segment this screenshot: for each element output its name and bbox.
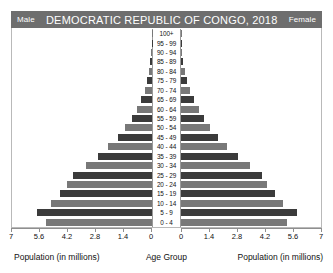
age-group-label: 80 - 84 bbox=[152, 67, 181, 76]
female-bar-cell bbox=[181, 86, 321, 95]
female-bar bbox=[181, 200, 283, 207]
age-group-label: 20 - 24 bbox=[152, 180, 181, 189]
female-bar-cell bbox=[181, 180, 321, 189]
male-bar bbox=[98, 153, 152, 160]
pyramid-row: 20 - 24 bbox=[12, 180, 321, 189]
male-bar-cell bbox=[12, 142, 152, 151]
male-bar-cell bbox=[12, 123, 152, 132]
male-bar-cell bbox=[12, 161, 152, 170]
female-bar-cell bbox=[181, 123, 321, 132]
pyramid-row: 60 - 64 bbox=[12, 104, 321, 113]
age-group-label: 10 - 14 bbox=[152, 199, 181, 208]
female-bar bbox=[181, 77, 187, 84]
female-bar-cell bbox=[181, 217, 321, 226]
axis-tick-label: 4.2 bbox=[62, 232, 72, 241]
axis-tick-label: 0 bbox=[149, 232, 153, 241]
female-bar-cell bbox=[181, 161, 321, 170]
female-bar bbox=[181, 209, 297, 216]
female-bar-cell bbox=[181, 104, 321, 113]
female-bar bbox=[181, 181, 267, 188]
female-bar-cell bbox=[181, 29, 321, 38]
male-bar-cell bbox=[12, 133, 152, 142]
pyramid-row: 45 - 49 bbox=[12, 133, 321, 142]
male-bar bbox=[147, 77, 152, 84]
male-bar-cell bbox=[12, 170, 152, 179]
pyramid-row: 90 - 94 bbox=[12, 48, 321, 57]
male-bar bbox=[145, 87, 152, 94]
right-axis-caption: Population (in millions) bbox=[237, 252, 323, 262]
axis-tick-label: 1.4 bbox=[204, 232, 214, 241]
female-bar-cell bbox=[181, 114, 321, 123]
axis-tick-label: 0 bbox=[179, 232, 183, 241]
male-bar-cell bbox=[12, 208, 152, 217]
pyramid-row: 70 - 74 bbox=[12, 86, 321, 95]
male-bar bbox=[46, 219, 152, 226]
right-axis-line bbox=[181, 228, 322, 229]
male-bar bbox=[137, 106, 152, 113]
female-bar-cell bbox=[181, 170, 321, 179]
female-bar bbox=[181, 68, 185, 75]
age-group-label: 90 - 94 bbox=[152, 48, 181, 57]
age-group-label: 0 - 4 bbox=[152, 217, 181, 226]
age-group-label: 95 - 99 bbox=[152, 38, 181, 47]
right-value-axis: 01.42.84.25.67 bbox=[181, 228, 322, 242]
female-bar bbox=[181, 190, 275, 197]
pyramid-row: 30 - 34 bbox=[12, 161, 321, 170]
female-bar-cell bbox=[181, 38, 321, 47]
male-bar bbox=[149, 68, 152, 75]
pyramid-rows: 100+95 - 9990 - 9485 - 8980 - 8475 - 797… bbox=[12, 29, 321, 227]
pyramid-row: 35 - 39 bbox=[12, 151, 321, 160]
male-bar-cell bbox=[12, 67, 152, 76]
male-bar-cell bbox=[12, 95, 152, 104]
male-legend-label: Male bbox=[17, 15, 35, 24]
female-bar-cell bbox=[181, 208, 321, 217]
age-group-label: 15 - 19 bbox=[152, 189, 181, 198]
female-bar bbox=[181, 134, 218, 141]
pyramid-row: 50 - 54 bbox=[12, 123, 321, 132]
male-bar bbox=[141, 96, 152, 103]
female-bar bbox=[181, 87, 190, 94]
age-group-label: 70 - 74 bbox=[152, 86, 181, 95]
axis-tick-label: 5.6 bbox=[288, 232, 298, 241]
male-bar-cell bbox=[12, 38, 152, 47]
male-bar bbox=[151, 49, 152, 56]
age-group-label: 65 - 69 bbox=[152, 95, 181, 104]
female-bar bbox=[181, 58, 183, 65]
female-bar-cell bbox=[181, 57, 321, 66]
female-bar-cell bbox=[181, 133, 321, 142]
pyramid-row: 85 - 89 bbox=[12, 57, 321, 66]
pyramid-row: 5 - 9 bbox=[12, 208, 321, 217]
male-bar bbox=[86, 162, 152, 169]
age-group-label: 75 - 79 bbox=[152, 76, 181, 85]
female-bar bbox=[181, 124, 210, 131]
chart-title: DEMOCRATIC REPUBLIC OF CONGO, 2018 bbox=[35, 14, 289, 26]
left-axis-line bbox=[11, 228, 152, 229]
male-bar bbox=[67, 181, 152, 188]
axis-tick-label: 2.8 bbox=[90, 232, 100, 241]
age-group-label: 25 - 29 bbox=[152, 170, 181, 179]
female-bar-cell bbox=[181, 151, 321, 160]
male-bar-cell bbox=[12, 217, 152, 226]
female-bar-cell bbox=[181, 95, 321, 104]
male-bar-cell bbox=[12, 76, 152, 85]
age-group-label: 50 - 54 bbox=[152, 123, 181, 132]
age-group-label: 35 - 39 bbox=[152, 151, 181, 160]
female-bar bbox=[181, 40, 182, 47]
female-bar-cell bbox=[181, 142, 321, 151]
male-bar bbox=[37, 209, 152, 216]
male-bar-cell bbox=[12, 180, 152, 189]
pyramid-row: 15 - 19 bbox=[12, 189, 321, 198]
age-group-label: 60 - 64 bbox=[152, 104, 181, 113]
male-bar bbox=[132, 115, 152, 122]
male-bar bbox=[108, 143, 152, 150]
female-bar-cell bbox=[181, 189, 321, 198]
female-bar bbox=[181, 162, 250, 169]
female-bar bbox=[181, 49, 182, 56]
pyramid-row: 75 - 79 bbox=[12, 76, 321, 85]
female-bar bbox=[181, 153, 238, 160]
male-bar-cell bbox=[12, 57, 152, 66]
axis-tick-label: 7 bbox=[319, 232, 323, 241]
age-group-label: 5 - 9 bbox=[152, 208, 181, 217]
pyramid-row: 10 - 14 bbox=[12, 199, 321, 208]
female-bar bbox=[181, 115, 204, 122]
